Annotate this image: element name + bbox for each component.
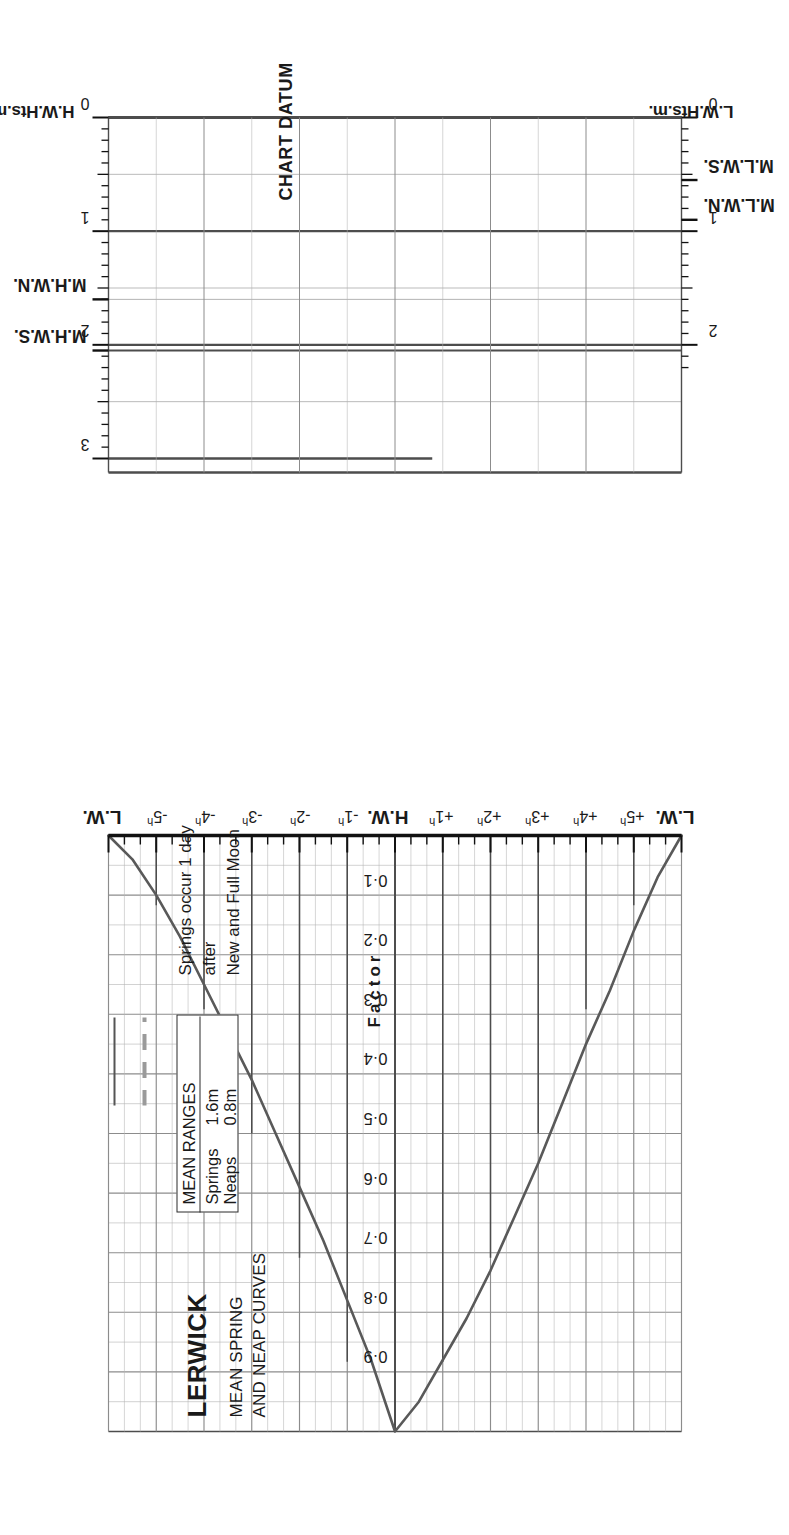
legend-sample-solid-line — [113, 1017, 115, 1105]
marker-mhwn: M.H.W.N. — [13, 274, 86, 292]
chart-datum-label: CHART DATUM — [276, 62, 294, 200]
legend-sample-dashed-line — [142, 1017, 146, 1105]
legend-row-neaps-name: Neaps — [221, 1156, 238, 1204]
time-tick--3: -3h — [242, 808, 262, 826]
hw-height-tick-0: 0 — [80, 94, 89, 110]
factor-tick-04: 0·4 — [363, 1050, 387, 1067]
marker-mlwn: M.L.W.N. — [703, 195, 774, 213]
diagram-graphics — [0, 0, 789, 1535]
lw-axis-name: L.W.Hts.m. — [648, 102, 733, 119]
time-tick-+2: +2h — [477, 808, 501, 826]
factor-tick-07: 0·7 — [363, 1229, 387, 1246]
time-tick-LW: L.W. — [655, 807, 694, 826]
time-tick-HW: H.W. — [366, 807, 407, 826]
legend-row-springs-value: 1.6m — [203, 1088, 220, 1125]
time-tick--1: -1h — [337, 808, 357, 826]
lw-height-tick-2: 2 — [708, 321, 717, 337]
legend-row-springs-name: Springs — [203, 1148, 220, 1204]
factor-tick-09: 0·9 — [363, 1348, 387, 1365]
factor-tick-03: 0·3 — [363, 990, 387, 1007]
legend-separator — [199, 1016, 200, 1212]
time-tick--2: -2h — [290, 808, 310, 826]
subtitle-line-1: MEAN SPRING — [227, 1296, 244, 1417]
note-line-3: New and Full Moon — [224, 829, 241, 975]
factor-tick-01: 0·1 — [363, 871, 387, 888]
rotated-diagram: LERWICK MEAN SPRING AND NEAP CURVES MEAN… — [0, 0, 789, 1535]
factor-tick-08: 0·8 — [363, 1288, 387, 1305]
legend-row-neaps-value: 0.8m — [221, 1088, 238, 1125]
time-tick-+5: +5h — [620, 808, 644, 826]
time-tick--5: -5h — [146, 808, 166, 826]
marker-mhws: M.H.W.S. — [14, 326, 86, 344]
factor-axis-title: Factor — [365, 951, 382, 1027]
time-tick-LW: L.W. — [82, 807, 121, 826]
legend-heading: MEAN RANGES — [180, 1082, 197, 1204]
hw-axis-name: H.W.Hts.m. — [0, 102, 74, 119]
note-line-1: Springs occur 1 day — [176, 825, 193, 975]
time-tick-+1: +1h — [429, 808, 453, 826]
time-tick--4: -4h — [194, 808, 214, 826]
time-tick-+3: +3h — [524, 808, 548, 826]
tidal-curve-canvas: LERWICK MEAN SPRING AND NEAP CURVES MEAN… — [0, 0, 789, 1535]
hw-height-tick-1: 1 — [80, 208, 89, 224]
subtitle-line-2: AND NEAP CURVES — [250, 1252, 267, 1417]
factor-tick-02: 0·2 — [363, 931, 387, 948]
page-title: LERWICK — [183, 1293, 209, 1417]
time-tick-+4: +4h — [572, 808, 596, 826]
note-line-2: after — [200, 941, 217, 975]
factor-tick-05: 0·5 — [363, 1110, 387, 1127]
hw-height-tick-3: 3 — [80, 435, 89, 451]
factor-tick-06: 0·6 — [363, 1169, 387, 1186]
marker-mlws: M.L.W.S. — [703, 155, 773, 173]
